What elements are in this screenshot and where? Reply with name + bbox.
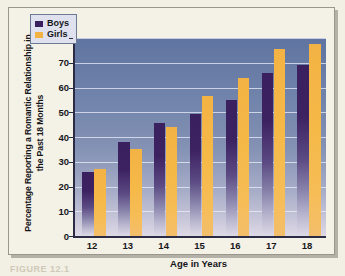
bar-boys-age-17 bbox=[262, 73, 274, 236]
x-axis-tick-label: 18 bbox=[292, 240, 322, 251]
legend-item-boys: Boys bbox=[35, 18, 69, 29]
gridline bbox=[75, 88, 326, 89]
legend-item-girls: Girls bbox=[35, 29, 69, 40]
bar-girls-age-16 bbox=[238, 78, 250, 236]
y-axis-tick-mark bbox=[69, 112, 73, 113]
chart-legend: BoysGirls bbox=[30, 14, 77, 44]
y-axis-tick-mark bbox=[69, 63, 73, 64]
y-axis-title: Percentage Reporting a Romantic Relation… bbox=[23, 33, 49, 233]
bar-boys-age-16 bbox=[226, 100, 238, 236]
figure-container: 01020304050607080 Percentage Reporting a… bbox=[0, 0, 345, 276]
bar-girls-age-15 bbox=[202, 96, 214, 236]
x-axis-tick-label: 17 bbox=[256, 240, 286, 251]
bar-boys-age-14 bbox=[154, 123, 166, 236]
bar-boys-age-18 bbox=[297, 65, 309, 236]
x-axis-title: Age in Years bbox=[73, 258, 324, 269]
y-axis-tick-mark bbox=[69, 187, 73, 188]
bar-girls-age-12 bbox=[94, 169, 106, 236]
bar-girls-age-14 bbox=[166, 127, 178, 236]
girls-swatch bbox=[35, 32, 43, 38]
bar-girls-age-18 bbox=[309, 44, 321, 236]
legend-label: Boys bbox=[47, 18, 69, 29]
bar-girls-age-17 bbox=[274, 49, 286, 236]
gridline bbox=[75, 38, 326, 39]
y-axis-tick-mark bbox=[69, 162, 73, 163]
gridline bbox=[75, 63, 326, 64]
x-axis-tick-label: 15 bbox=[185, 240, 215, 251]
x-axis-tick-label: 12 bbox=[77, 240, 107, 251]
plot-area bbox=[73, 38, 326, 238]
boys-swatch bbox=[35, 21, 43, 27]
bar-boys-age-13 bbox=[118, 142, 130, 236]
y-axis-tick-mark bbox=[69, 211, 73, 212]
y-axis-tick-mark bbox=[69, 137, 73, 138]
chart-panel: 01020304050607080 Percentage Reporting a… bbox=[8, 7, 335, 255]
x-axis-tick-label: 14 bbox=[149, 240, 179, 251]
bar-boys-age-15 bbox=[190, 114, 202, 237]
legend-label: Girls bbox=[47, 29, 68, 40]
bar-boys-age-12 bbox=[82, 172, 94, 236]
x-axis-tick-label: 16 bbox=[220, 240, 250, 251]
y-axis-tick-mark bbox=[69, 38, 73, 39]
figure-caption: FIGURE 12.1 bbox=[10, 264, 70, 275]
y-axis-tick-mark bbox=[69, 236, 73, 237]
bar-girls-age-13 bbox=[130, 149, 142, 236]
y-axis-tick-mark bbox=[69, 88, 73, 89]
x-axis-tick-label: 13 bbox=[113, 240, 143, 251]
